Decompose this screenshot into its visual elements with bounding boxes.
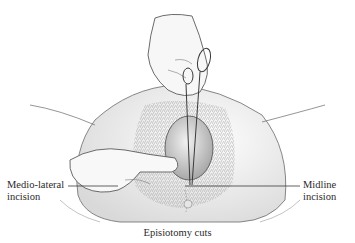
midline-label-line2: incision [303, 191, 336, 203]
medio-lateral-label-line1: Medio-lateral [7, 179, 64, 191]
medio-lateral-label: Medio-lateral incision [7, 179, 64, 203]
caption-text: Episiotomy cuts [0, 227, 355, 238]
upper-hand [148, 14, 208, 95]
figure-caption: Episiotomy cuts [0, 227, 355, 238]
midline-label: Midline incision [303, 179, 336, 203]
midline-label-line1: Midline [303, 179, 336, 191]
medio-lateral-label-line2: incision [7, 191, 64, 203]
episiotomy-illustration [0, 0, 355, 243]
